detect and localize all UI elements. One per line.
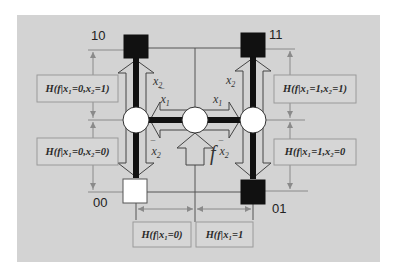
node-10 [124, 35, 148, 58]
bdd-entropy-diagram: 10 11 00 01 x2 ¯x2 x2 ¯x2 ¯x1 x1 f H(f|x… [0, 0, 398, 273]
node-label-00: 00 [93, 195, 107, 210]
node-00 [123, 179, 147, 203]
entropy-box-left-bottom: H(f|x₁=0,x₂=0) [37, 138, 118, 165]
node-01 [241, 180, 265, 204]
junction-center [182, 107, 208, 133]
svg-text:H(f|x₁=1: H(f|x₁=1 [205, 229, 244, 241]
entropy-box-bottom-left: H(f|x₁=0) [133, 222, 191, 247]
svg-text:H(f|x₁=1,x₂=0: H(f|x₁=1,x₂=0 [284, 146, 346, 158]
svg-text:H(f|x₁=0,x₂=1): H(f|x₁=0,x₂=1) [45, 83, 110, 95]
entropy-box-right-bottom: H(f|x₁=1,x₂=0 [274, 139, 356, 165]
node-label-01: 01 [272, 201, 286, 216]
svg-text:H(f|x₁=0): H(f|x₁=0) [140, 229, 182, 241]
junction-right [240, 107, 266, 133]
entropy-box-left-top: H(f|x₁=0,x₂=1) [37, 75, 118, 102]
node-label-11: 11 [269, 27, 283, 42]
entropy-box-right-top: H(f|x₁=1,x₂=1) [274, 75, 356, 103]
entropy-box-bottom-right: H(f|x₁=1 [196, 222, 253, 247]
svg-text:H(f|x₁=1,x₂=1): H(f|x₁=1,x₂=1) [282, 83, 347, 95]
node-11 [241, 33, 265, 57]
svg-text:H(f|x₁=0,x₂=0): H(f|x₁=0,x₂=0) [45, 146, 110, 158]
node-label-10: 10 [91, 28, 105, 43]
junction-left [123, 107, 149, 133]
